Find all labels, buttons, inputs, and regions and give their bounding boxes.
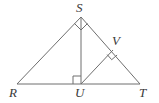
vertex-label-S: S: [76, 1, 83, 14]
vertex-label-V: V: [112, 34, 120, 47]
geometry-figure: R S T U V: [0, 0, 159, 103]
vertex-label-U: U: [75, 86, 84, 99]
right-angle-at-V-icon: [107, 55, 117, 60]
right-angle-at-U-icon: [73, 76, 81, 84]
vertex-label-T: T: [139, 86, 146, 99]
segment-RS: [17, 17, 81, 84]
vertex-label-R: R: [9, 86, 17, 99]
